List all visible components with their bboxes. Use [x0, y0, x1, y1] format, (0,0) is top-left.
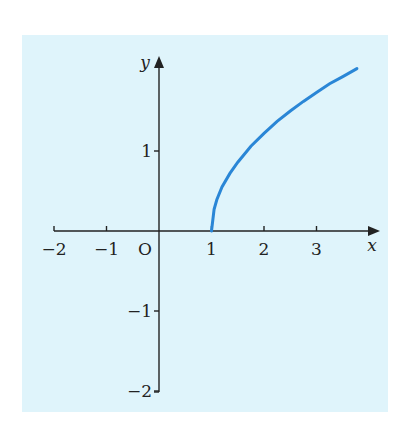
x-tick-label: −1	[94, 239, 119, 259]
y-tick-label: 1	[141, 141, 152, 161]
y-axis-arrow-icon	[154, 56, 164, 68]
origin-label: O	[138, 239, 152, 259]
x-tick-label: 2	[259, 239, 270, 259]
y-axis-label: y	[139, 52, 150, 72]
x-tick-label: −2	[41, 239, 66, 259]
x-tick-label: 1	[206, 239, 217, 259]
curve-line	[212, 69, 357, 231]
ticks	[54, 151, 317, 391]
axes	[54, 56, 380, 392]
x-tick-label: 3	[311, 239, 322, 259]
tick-labels: −2−11231−1−2Oxy	[41, 52, 377, 401]
y-tick-label: −2	[127, 381, 152, 401]
y-tick-label: −1	[127, 301, 152, 321]
x-axis-label: x	[367, 235, 377, 255]
function-graph: −2−11231−1−2Oxy	[0, 0, 406, 421]
